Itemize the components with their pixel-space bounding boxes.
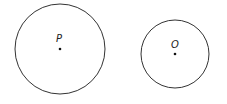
label-o: O — [171, 39, 179, 50]
circle-o-group: O — [141, 20, 209, 88]
label-p: P — [56, 33, 63, 44]
diagram-canvas: P O — [0, 0, 227, 104]
circle-p-group: P — [15, 4, 105, 94]
center-dot-o — [174, 53, 177, 56]
center-dot-p — [59, 48, 62, 51]
